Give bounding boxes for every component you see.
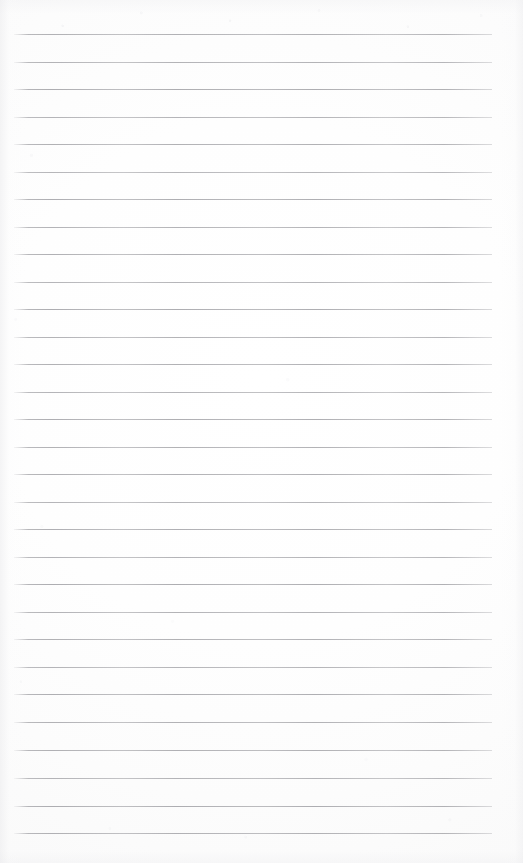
- ruled-line: [14, 722, 492, 723]
- ruled-line: [14, 89, 492, 90]
- ruled-line: [14, 227, 492, 228]
- ruled-line: [14, 309, 492, 310]
- ruled-line: [14, 557, 492, 558]
- ruled-line: [14, 34, 492, 35]
- ruled-line: [14, 529, 492, 530]
- ruled-line: [14, 337, 492, 338]
- ruled-line: [14, 502, 492, 503]
- scanned-page: [0, 0, 523, 863]
- ruled-line: [14, 667, 492, 668]
- ruled-line: [14, 694, 492, 695]
- ruled-line: [14, 392, 492, 393]
- ruled-line: [14, 364, 492, 365]
- ruled-line: [14, 612, 492, 613]
- ruled-line: [14, 254, 492, 255]
- ruled-line: [14, 833, 492, 834]
- ruled-line: [14, 778, 492, 779]
- ruled-line: [14, 806, 492, 807]
- ruled-line: [14, 62, 492, 63]
- ruled-line: [14, 144, 492, 145]
- ruled-line: [14, 117, 492, 118]
- ruled-line: [14, 584, 492, 585]
- ruled-line: [14, 419, 492, 420]
- ruled-line: [14, 639, 492, 640]
- ruled-line: [14, 172, 492, 173]
- ruled-lines-group: [0, 0, 523, 863]
- ruled-line: [14, 750, 492, 751]
- ruled-line: [14, 199, 492, 200]
- ruled-line: [14, 282, 492, 283]
- ruled-line: [14, 447, 492, 448]
- ruled-line: [14, 474, 492, 475]
